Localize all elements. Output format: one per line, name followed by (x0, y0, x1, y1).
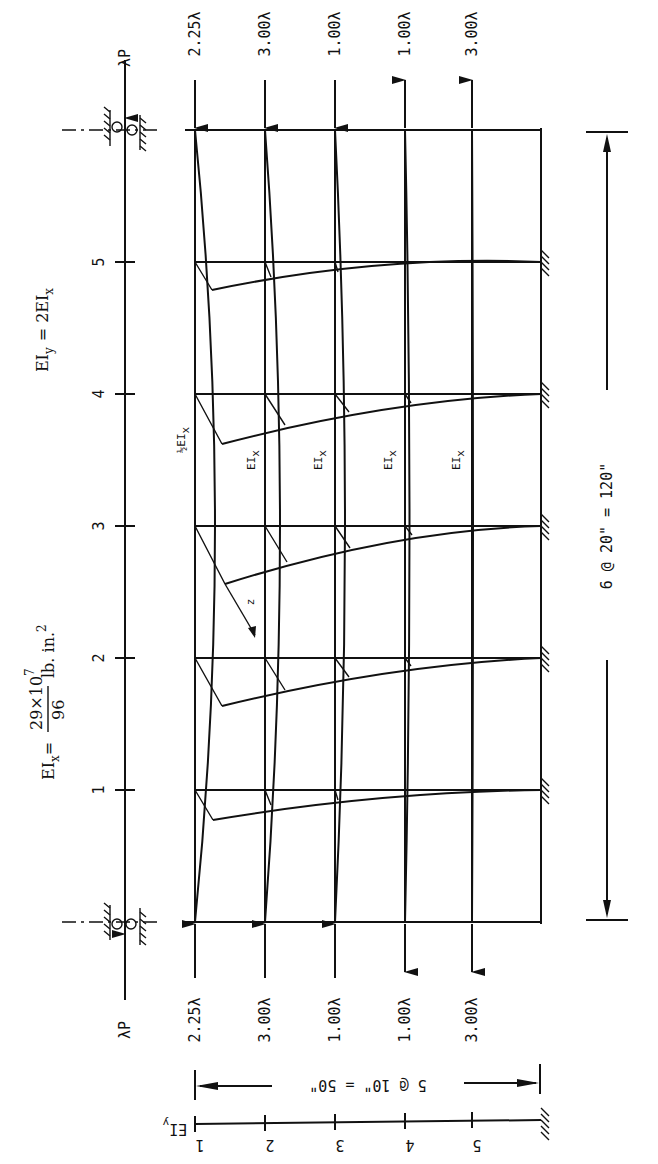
svg-text:6 @ 20" = 120": 6 @ 20" = 120" (598, 463, 616, 589)
svg-text:EIx: EIx (382, 450, 399, 470)
svg-text:2.25λ: 2.25λ (186, 997, 204, 1042)
svg-text:4: 4 (90, 389, 108, 398)
roller-support-bottom (62, 903, 160, 945)
bottom-dimension: 5 @ 10" = 50" (195, 1064, 540, 1100)
svg-text:2.25λ: 2.25λ (186, 11, 204, 56)
axis-tick-labels: 1 2 3 4 5 (90, 257, 108, 794)
svg-text:3.00λ: 3.00λ (463, 997, 481, 1042)
bottom-eiy-axis: 1 2 3 4 5 EIy (162, 1108, 549, 1154)
svg-text:lb. in.2: lb. in.2 (35, 624, 58, 678)
svg-text:3.00λ: 3.00λ (256, 997, 274, 1042)
span-dimension: 6 @ 20" = 120" (586, 132, 628, 920)
bottom-load-label: λP (116, 1021, 134, 1039)
svg-text:5: 5 (90, 257, 108, 266)
svg-text:5 @ 10" = 50": 5 @ 10" = 50" (309, 1076, 426, 1094)
fixed-supports (541, 250, 549, 804)
top-column-loads: 2.25λ 3.00λ 1.00λ 1.00λ 3.00λ (186, 11, 481, 128)
svg-text:3.00λ: 3.00λ (463, 11, 481, 56)
member-labels: ½EIx EIx EIx EIx EIx (175, 426, 467, 470)
svg-text:1.00λ: 1.00λ (326, 997, 344, 1042)
svg-text:½EIx: ½EIx (175, 426, 192, 453)
svg-text:EIx: EIx (312, 450, 329, 470)
bottom-column-loads: 2.25λ 3.00λ 1.00λ 1.00λ 3.00λ (186, 924, 481, 1043)
top-load-label: λP (116, 49, 134, 67)
roller-support-top (62, 107, 160, 151)
svg-text:EIx: EIx (245, 450, 262, 470)
svg-text:96: 96 (49, 700, 68, 720)
svg-text:1.00λ: 1.00λ (326, 11, 344, 56)
undeformed-grid (185, 128, 541, 924)
z-axis-arrow: z (225, 584, 257, 638)
svg-text:3: 3 (335, 1136, 344, 1154)
svg-text:3.00λ: 3.00λ (256, 11, 274, 56)
formula-eix: EIx= 29×107 96 lb. in.2 (23, 624, 68, 780)
svg-text:EIy: EIy (162, 1116, 187, 1138)
svg-text:2: 2 (265, 1136, 274, 1154)
buckled-grid-diagram: 1 2 3 4 5 λP λP (0, 0, 658, 1164)
main-axis (115, 60, 135, 1000)
svg-text:2: 2 (90, 653, 108, 662)
svg-text:1.00λ: 1.00λ (396, 11, 414, 56)
svg-text:5: 5 (472, 1136, 481, 1154)
svg-text:EIx: EIx (450, 450, 467, 470)
svg-text:EIx=: EIx= (39, 742, 62, 780)
formula-eiy: EIy= 2EIx (33, 288, 56, 372)
svg-text:3: 3 (90, 521, 108, 530)
svg-text:z: z (244, 599, 257, 606)
svg-text:1: 1 (195, 1136, 204, 1154)
svg-text:EIy= 2EIx: EIy= 2EIx (33, 288, 56, 372)
svg-text:4: 4 (405, 1136, 414, 1154)
svg-text:1: 1 (90, 785, 108, 794)
svg-text:1.00λ: 1.00λ (396, 997, 414, 1042)
